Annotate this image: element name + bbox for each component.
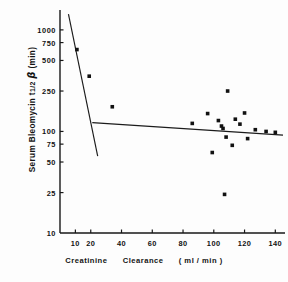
figure-bleomycin-clearance: Serum Bleomycin t1/2 β (min) 25507510025… [0, 0, 288, 282]
data-point [217, 119, 221, 123]
data-point [87, 74, 91, 78]
data-point [243, 111, 247, 115]
data-point [223, 193, 227, 197]
data-point [234, 117, 238, 121]
data-point [221, 127, 225, 131]
data-point [210, 151, 214, 155]
data-point [274, 131, 278, 135]
data-point [238, 122, 242, 126]
data-point [226, 89, 230, 93]
plot-canvas [0, 0, 288, 282]
data-point [110, 105, 114, 109]
data-point [230, 144, 234, 148]
data-point [246, 137, 250, 141]
data-point [254, 128, 258, 132]
data-point [75, 48, 79, 52]
data-point [224, 135, 228, 139]
data-point [264, 130, 268, 134]
steep-regression-line [68, 14, 97, 156]
data-point [206, 112, 210, 116]
data-point [190, 122, 194, 126]
